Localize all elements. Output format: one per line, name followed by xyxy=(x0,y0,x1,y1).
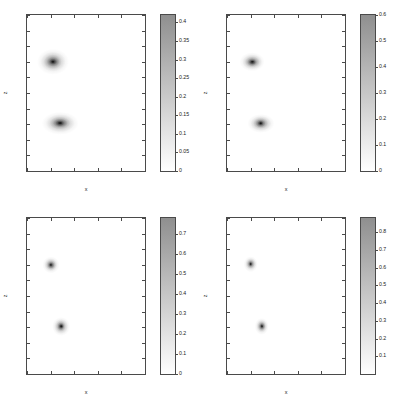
y-tick xyxy=(27,171,30,172)
colorbar-3[interactable]: 00.10.20.30.40.50.60.7 xyxy=(160,217,176,375)
y-tick xyxy=(227,140,230,141)
colorbar-tick xyxy=(375,41,378,42)
colorbar-tick xyxy=(375,145,378,146)
colorbar-tick-label: 0.1 xyxy=(379,142,386,147)
y-tick xyxy=(227,77,230,78)
y-tick xyxy=(227,312,230,313)
y-tick xyxy=(27,327,30,328)
x-tick xyxy=(274,371,275,374)
y-tick xyxy=(27,124,30,125)
x-tick xyxy=(74,168,75,171)
x-tick xyxy=(345,371,346,374)
y-tick-right xyxy=(142,327,145,328)
colorbar-tick-label: 0 xyxy=(379,168,382,173)
colorbar-tick-label: 0.6 xyxy=(379,265,386,270)
heatmap-panel-3: 00.20.40.60.8100.10.20.30.40.50.60.70.80… xyxy=(0,203,200,406)
x-tick-top xyxy=(145,218,146,221)
x-tick-top xyxy=(251,218,252,221)
colorbar-tick-label: 0.4 xyxy=(179,20,186,25)
colorbar-tick xyxy=(375,250,378,251)
y-tick-right xyxy=(342,171,345,172)
x-tick xyxy=(274,168,275,171)
y-tick xyxy=(227,93,230,94)
x-tick xyxy=(51,371,52,374)
y-tick-right xyxy=(342,15,345,16)
x-tick-top xyxy=(98,15,99,18)
colorbar-tick xyxy=(175,354,178,355)
x-tick xyxy=(98,168,99,171)
y-tick xyxy=(227,171,230,172)
intensity-field-1 xyxy=(27,15,145,171)
x-axis-title-1: x xyxy=(26,186,146,192)
y-tick xyxy=(27,296,30,297)
y-tick xyxy=(227,265,230,266)
x-tick xyxy=(98,371,99,374)
intensity-field-2 xyxy=(227,15,345,171)
colorbar-tick-label: 0.4 xyxy=(379,300,386,305)
plot-axes-2[interactable]: 00.20.40.60.8100.10.20.30.40.50.60.70.80… xyxy=(226,14,346,172)
y-tick xyxy=(227,46,230,47)
y-tick xyxy=(27,280,30,281)
colorbar-tick xyxy=(175,152,178,153)
plot-axes-1[interactable]: 00.20.40.60.8100.10.20.30.40.50.60.70.80… xyxy=(26,14,146,172)
x-tick-top xyxy=(98,218,99,221)
y-tick xyxy=(227,15,230,16)
colorbar-tick xyxy=(175,234,178,235)
y-tick-right xyxy=(142,62,145,63)
colorbar-2[interactable]: 00.10.20.30.40.50.6 xyxy=(360,14,376,172)
colorbar-tick xyxy=(175,171,178,172)
y-tick xyxy=(227,358,230,359)
y-tick xyxy=(27,374,30,375)
colorbar-tick xyxy=(375,67,378,68)
x-tick-top xyxy=(298,15,299,18)
y-tick-right xyxy=(342,155,345,156)
y-tick-right xyxy=(342,124,345,125)
y-tick xyxy=(227,343,230,344)
y-tick-right xyxy=(342,46,345,47)
colorbar-tick xyxy=(375,356,378,357)
colorbar-tick-label: 0.2 xyxy=(179,94,186,99)
x-tick-top xyxy=(74,218,75,221)
colorbar-tick-label: 0.05 xyxy=(179,150,189,155)
y-tick xyxy=(27,140,30,141)
y-tick xyxy=(227,62,230,63)
x-tick-top xyxy=(321,218,322,221)
y-tick-right xyxy=(342,62,345,63)
colorbar-tick xyxy=(375,15,378,16)
x-tick-top xyxy=(345,218,346,221)
y-tick xyxy=(27,249,30,250)
x-tick xyxy=(145,371,146,374)
colorbar-tick xyxy=(375,171,378,172)
y-tick-right xyxy=(342,343,345,344)
y-tick-right xyxy=(142,77,145,78)
colorbar-1[interactable]: 00.050.10.150.20.250.30.350.4 xyxy=(160,14,176,172)
y-tick-right xyxy=(342,93,345,94)
y-tick xyxy=(27,93,30,94)
colorbar-tick xyxy=(175,254,178,255)
y-tick xyxy=(27,109,30,110)
x-tick xyxy=(251,168,252,171)
y-tick-right xyxy=(342,249,345,250)
y-tick xyxy=(227,124,230,125)
y-tick-right xyxy=(142,296,145,297)
colorbar-tick-label: 0.4 xyxy=(179,291,186,296)
colorbar-tick-label: 0.5 xyxy=(379,283,386,288)
intensity-blob-4-2 xyxy=(261,325,263,327)
y-tick-right xyxy=(142,140,145,141)
colorbar-tick-label: 0.8 xyxy=(379,230,386,235)
y-tick xyxy=(27,265,30,266)
colorbar-tick-label: 0.2 xyxy=(179,331,186,336)
y-tick xyxy=(27,46,30,47)
colorbar-4[interactable]: 0.10.20.30.40.50.60.70.8 xyxy=(360,217,376,375)
plot-axes-3[interactable]: 00.20.40.60.8100.10.20.30.40.50.60.70.80… xyxy=(26,217,146,375)
y-tick-right xyxy=(142,312,145,313)
y-tick-right xyxy=(142,265,145,266)
x-tick xyxy=(251,371,252,374)
y-tick xyxy=(27,312,30,313)
intensity-field-4 xyxy=(227,218,345,374)
plot-axes-4[interactable]: 00.20.40.60.8100.10.20.30.40.50.60.70.80… xyxy=(226,217,346,375)
y-tick-right xyxy=(142,31,145,32)
y-tick xyxy=(27,343,30,344)
x-tick xyxy=(51,168,52,171)
colorbar-tick-label: 0.5 xyxy=(179,271,186,276)
